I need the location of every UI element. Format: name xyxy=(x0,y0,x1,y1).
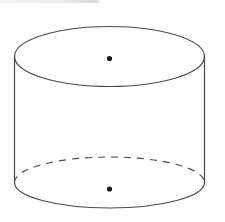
bottom-face-visible-arc xyxy=(15,183,205,209)
diagram-canvas: Line drawing of a right circular cylinde… xyxy=(0,0,225,222)
bottom-face-center-dot xyxy=(107,186,112,191)
cylinder-figure: Line drawing of a right circular cylinde… xyxy=(0,0,225,222)
bottom-face-hidden-arc xyxy=(15,157,205,182)
top-face-center-dot xyxy=(107,56,112,61)
